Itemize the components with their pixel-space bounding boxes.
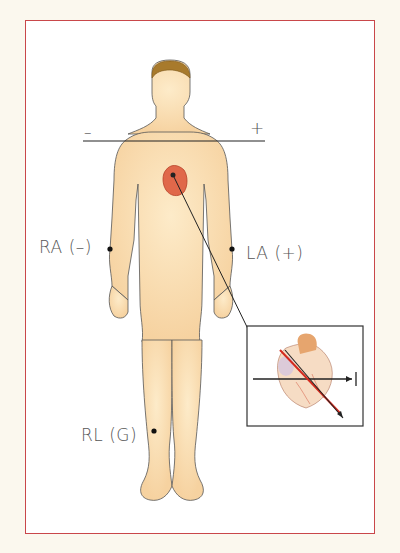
heart-inset [247,326,363,426]
heart-icon [163,166,187,196]
electrode-la [229,246,234,251]
positive-sign: + [250,118,265,138]
head [128,60,210,134]
negative-sign: – [84,124,92,142]
left-leg [172,340,203,500]
electrode-label-ra: RA (–) [39,237,92,257]
body-figure [0,0,400,553]
right-leg [141,340,172,500]
electrode-rl [151,428,156,433]
electrode-label-rl: RL (G) [81,425,137,445]
electrode-ra [107,246,112,251]
electrode-label-la: LA (+) [246,243,303,263]
